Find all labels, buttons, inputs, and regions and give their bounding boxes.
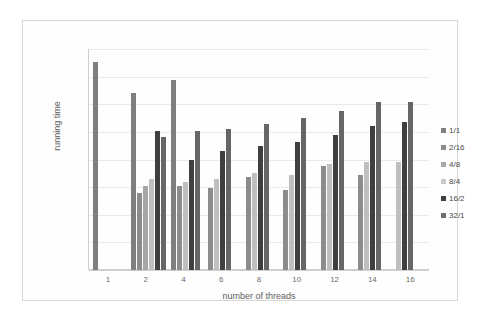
bar-group xyxy=(354,49,392,270)
bar xyxy=(258,146,263,270)
chart-figure: 1246810121416 number of threads running … xyxy=(0,0,480,318)
bar xyxy=(226,129,231,270)
bar xyxy=(370,126,375,270)
bar-group xyxy=(392,49,430,270)
legend-item[interactable]: 4/8 xyxy=(441,156,480,173)
bar-group xyxy=(242,49,280,270)
legend-label: 1/1 xyxy=(449,126,460,135)
x-axis-title: number of threads xyxy=(89,291,429,301)
x-axis-tick-labels: 1246810121416 xyxy=(89,273,429,287)
bar xyxy=(246,177,251,270)
legend-label: 32/1 xyxy=(449,211,465,220)
x-axis-tick-label: 10 xyxy=(278,273,316,287)
legend-swatch-icon xyxy=(441,162,446,167)
x-axis-tick-label: 14 xyxy=(353,273,391,287)
x-axis-tick-label: 2 xyxy=(127,273,165,287)
bar-group xyxy=(127,49,167,270)
legend-item[interactable]: 32/1 xyxy=(441,207,480,224)
gridline xyxy=(89,270,429,271)
bar-group xyxy=(279,49,317,270)
x-axis-tick-label: 1 xyxy=(89,273,127,287)
legend-swatch-icon xyxy=(441,213,446,218)
bar xyxy=(376,102,381,270)
legend-swatch-icon xyxy=(441,128,446,133)
legend-label: 16/2 xyxy=(449,194,465,203)
chart-legend: 1/12/164/88/416/232/1 xyxy=(441,122,480,224)
plot-area xyxy=(89,49,429,270)
legend-swatch-icon xyxy=(441,179,446,184)
bar xyxy=(396,162,401,270)
bar xyxy=(333,135,338,270)
bar xyxy=(408,102,413,270)
bar-group xyxy=(89,49,127,270)
bars-layer xyxy=(89,49,429,270)
bar xyxy=(301,118,306,270)
legend-item[interactable]: 2/16 xyxy=(441,139,480,156)
bar-group xyxy=(204,49,242,270)
bar xyxy=(208,188,213,270)
bar xyxy=(339,111,344,270)
bar xyxy=(137,193,142,270)
legend-item[interactable]: 16/2 xyxy=(441,190,480,207)
chart-frame: 1246810121416 number of threads running … xyxy=(22,20,458,301)
bar xyxy=(161,137,166,270)
bar xyxy=(264,124,269,270)
x-axis-tick-label: 6 xyxy=(202,273,240,287)
bar xyxy=(131,93,136,270)
bar xyxy=(183,182,188,270)
legend-label: 2/16 xyxy=(449,143,465,152)
bar xyxy=(177,186,182,270)
bar xyxy=(402,122,407,270)
bar xyxy=(93,62,98,270)
legend-item[interactable]: 1/1 xyxy=(441,122,480,139)
legend-label: 8/4 xyxy=(449,177,460,186)
legend-swatch-icon xyxy=(441,196,446,201)
bar xyxy=(283,190,288,270)
bar-group xyxy=(167,49,205,270)
bar xyxy=(364,162,369,270)
bar xyxy=(143,186,148,270)
x-axis-tick-label: 12 xyxy=(316,273,354,287)
bar xyxy=(295,142,300,270)
bar-group xyxy=(317,49,355,270)
x-axis-tick-label: 4 xyxy=(165,273,203,287)
bar xyxy=(195,131,200,270)
bar xyxy=(358,175,363,270)
bar xyxy=(220,151,225,270)
x-axis-tick-label: 16 xyxy=(391,273,429,287)
bar xyxy=(289,175,294,270)
legend-label: 4/8 xyxy=(449,160,460,169)
bar xyxy=(149,179,154,270)
x-axis-tick-label: 8 xyxy=(240,273,278,287)
bar xyxy=(214,179,219,270)
bar xyxy=(155,131,160,270)
bar xyxy=(171,80,176,270)
bar xyxy=(189,160,194,271)
legend-swatch-icon xyxy=(441,145,446,150)
y-axis-title: running time xyxy=(52,86,62,166)
bar xyxy=(321,166,326,270)
legend-item[interactable]: 8/4 xyxy=(441,173,480,190)
bar xyxy=(327,164,332,270)
bar xyxy=(252,173,257,270)
